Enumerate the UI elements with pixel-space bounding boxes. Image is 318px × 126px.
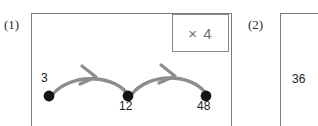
answers-heading: Answers: bbox=[2, 0, 51, 3]
item-label-1: (1) bbox=[4, 18, 19, 32]
node-value-label: 3 bbox=[41, 72, 48, 85]
rule-box-times-4: × 4 bbox=[172, 14, 229, 52]
node-value-label: 12 bbox=[119, 100, 132, 113]
node-value-label: 48 bbox=[197, 100, 210, 113]
item-label-2: (2) bbox=[248, 18, 263, 32]
answer-box-2 bbox=[280, 13, 318, 126]
rule-label: × 4 bbox=[173, 15, 228, 51]
worksheet-answer-key: Answers: (1) × 4 3 12 48 (2) 36 bbox=[0, 0, 318, 126]
node-value-label: 36 bbox=[292, 73, 305, 86]
